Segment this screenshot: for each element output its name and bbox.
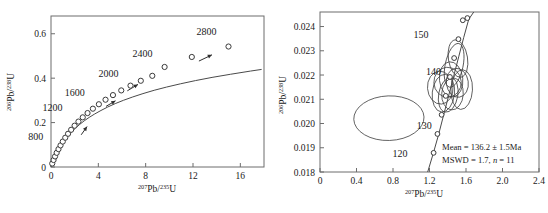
right-y-tick-labels: 0.0180.0190.0200.0210.0220.0230.024 bbox=[294, 22, 316, 177]
left-age-marker-2600 bbox=[189, 54, 194, 59]
left-plot-svg: 0481216 00.20.40.6 800120016002000240028… bbox=[0, 0, 274, 213]
left-age-label-1600: 1600 bbox=[65, 87, 85, 98]
left-age-marker-1200 bbox=[76, 119, 81, 124]
left-age-marker-2200 bbox=[150, 73, 155, 78]
right-yticklabel-6: 0.024 bbox=[294, 22, 316, 32]
right-error-ellipse-7 bbox=[441, 42, 468, 89]
right-age-label-130: 130 bbox=[417, 120, 432, 131]
left-age-label-2000: 2000 bbox=[98, 68, 118, 79]
right-age-marker-160 bbox=[465, 16, 470, 21]
left-yticklabel-2: 0.4 bbox=[34, 74, 46, 84]
left-x-axis-label: 207Pb/235U bbox=[138, 183, 176, 195]
left-age-marker-1300 bbox=[80, 115, 85, 120]
right-age-label-120: 120 bbox=[393, 148, 408, 159]
left-age-marker-1700 bbox=[103, 97, 108, 102]
right-y-axis-label: 206Pb/238U bbox=[277, 76, 289, 114]
mswd-label: MSWD = 1.7, n = 11 bbox=[442, 155, 515, 165]
left-yticklabel-3: 0.6 bbox=[34, 29, 46, 39]
right-age-label-150: 150 bbox=[413, 29, 428, 40]
left-xticklabel-4: 16 bbox=[236, 171, 246, 181]
left-xticklabel-1: 4 bbox=[96, 171, 101, 181]
left-age-label-2800: 2800 bbox=[197, 26, 217, 37]
left-xticklabel-0: 0 bbox=[49, 171, 54, 181]
left-yticklabel-1: 0.2 bbox=[34, 118, 46, 128]
left-yticklabel-0: 0 bbox=[41, 163, 46, 173]
right-xticklabel-2: 0.8 bbox=[387, 176, 399, 186]
right-yticklabel-0: 0.018 bbox=[294, 168, 316, 178]
concordia-panel-right: 00.40.81.21.62.02.4 0.0180.0190.0200.021… bbox=[274, 0, 548, 213]
left-age-marker-1800 bbox=[110, 92, 115, 97]
left-age-marker-1400 bbox=[85, 110, 90, 115]
right-xticklabel-1: 0.4 bbox=[351, 176, 363, 186]
left-age-marker-1500 bbox=[90, 106, 95, 111]
arrow-800-head bbox=[83, 127, 87, 132]
left-xticklabel-2: 8 bbox=[143, 171, 148, 181]
right-error-ellipse-0 bbox=[353, 95, 425, 142]
right-age-marker-125 bbox=[435, 132, 440, 137]
left-age-marker-1600 bbox=[96, 102, 101, 107]
right-stats-box: Mean = 136.2 ± 1.5Ma MSWD = 1.7, n = 11 bbox=[442, 142, 521, 165]
right-yticklabel-2: 0.020 bbox=[294, 119, 316, 129]
left-y-axis-label: 206Pb/238U bbox=[5, 73, 17, 111]
right-age-marker-145 bbox=[452, 56, 457, 61]
right-age-marker-120 bbox=[431, 150, 436, 155]
left-age-label-800: 800 bbox=[28, 131, 43, 142]
mean-age-label: Mean = 136.2 ± 1.5Ma bbox=[442, 142, 521, 152]
right-yticklabel-5: 0.023 bbox=[294, 46, 316, 56]
right-xticklabel-4: 1.6 bbox=[460, 176, 472, 186]
right-age-marker-140 bbox=[448, 75, 453, 80]
left-age-marker-2800 bbox=[226, 44, 231, 49]
left-age-label-1200: 1200 bbox=[42, 102, 62, 113]
left-age-marker-1900 bbox=[119, 88, 124, 93]
right-plot-svg: 00.40.81.21.62.02.4 0.0180.0190.0200.021… bbox=[274, 0, 548, 213]
right-yticklabel-3: 0.021 bbox=[294, 95, 316, 105]
u-pb-concordia-figure: 0481216 00.20.40.6 800120016002000240028… bbox=[0, 0, 548, 213]
left-age-marker-2000 bbox=[128, 83, 133, 88]
right-error-ellipses bbox=[353, 38, 473, 141]
right-xticklabel-0: 0 bbox=[318, 176, 323, 186]
right-xticklabel-6: 2.4 bbox=[533, 176, 545, 186]
right-yticklabel-4: 0.022 bbox=[294, 71, 316, 81]
right-age-marker-130 bbox=[439, 112, 444, 117]
right-x-tick-labels: 00.40.81.21.62.02.4 bbox=[318, 176, 546, 186]
left-age-marker-2400 bbox=[162, 64, 167, 69]
right-age-label-140: 140 bbox=[426, 66, 441, 77]
concordia-panel-left: 0481216 00.20.40.6 800120016002000240028… bbox=[0, 0, 274, 213]
right-age-marker-150 bbox=[456, 37, 461, 42]
left-xticklabel-3: 12 bbox=[188, 171, 198, 181]
left-age-markers bbox=[50, 44, 231, 166]
left-age-annotations: 80012001600200024002800 bbox=[28, 26, 216, 142]
right-yticklabel-1: 0.019 bbox=[294, 143, 316, 153]
right-x-axis-label: 207Pb/235U bbox=[405, 188, 443, 200]
right-age-marker-155 bbox=[460, 18, 465, 23]
right-age-marker-135 bbox=[443, 93, 448, 98]
right-xticklabel-5: 2.0 bbox=[497, 176, 509, 186]
right-xticklabel-3: 1.2 bbox=[424, 176, 436, 186]
left-age-marker-2100 bbox=[138, 78, 143, 83]
left-age-label-2400: 2400 bbox=[133, 48, 153, 59]
left-x-tick-labels: 0481216 bbox=[49, 171, 246, 181]
